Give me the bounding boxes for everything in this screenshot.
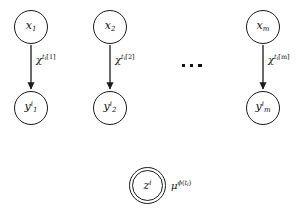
ellipsis-dot bbox=[198, 64, 201, 67]
graphical-model-diagram: x1 χti[1] yi1 x2 χti[2] yi2 xm χti[m] bbox=[0, 0, 301, 216]
node-xm[interactable]: xm bbox=[246, 10, 280, 44]
node-ym[interactable]: yim bbox=[246, 91, 280, 125]
node-x2-label: x2 bbox=[105, 20, 116, 33]
node-x1-label: x1 bbox=[26, 20, 37, 33]
node-y2[interactable]: yi2 bbox=[93, 91, 127, 125]
node-z-label: zi bbox=[143, 180, 151, 191]
edge-label-column-m: χti[m] bbox=[268, 54, 290, 65]
node-ym-label: yim bbox=[255, 101, 270, 114]
edge-label-column-2: χti[2] bbox=[115, 54, 135, 65]
node-z-observed[interactable]: zi bbox=[132, 170, 163, 201]
edge-label-column-1: χti[1] bbox=[36, 54, 56, 65]
node-y2-label: yi2 bbox=[104, 101, 117, 114]
ellipsis-indicator bbox=[182, 64, 202, 67]
node-y1[interactable]: yi1 bbox=[14, 91, 48, 125]
ellipsis-dot bbox=[190, 64, 193, 67]
node-y1-label: yi1 bbox=[25, 101, 38, 114]
observed-node-side-label: μϕ(ti) bbox=[171, 180, 191, 191]
ellipsis-dot bbox=[182, 64, 185, 67]
node-x2[interactable]: x2 bbox=[93, 10, 127, 44]
node-xm-label: xm bbox=[257, 20, 270, 33]
node-x1[interactable]: x1 bbox=[14, 10, 48, 44]
